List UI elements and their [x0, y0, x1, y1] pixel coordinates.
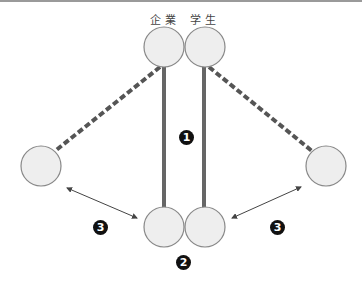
- arrow-left: [67, 188, 137, 218]
- arrow-right: [232, 187, 301, 218]
- right-node: [306, 146, 346, 186]
- relationship-diagram: [0, 0, 362, 290]
- student-top-node: [185, 27, 225, 67]
- dashed-link-right: [209, 67, 312, 151]
- student-bottom-node: [185, 207, 225, 247]
- marker-3-right: 3: [270, 220, 285, 235]
- marker-3-left: 3: [93, 220, 108, 235]
- company-label: 企業: [150, 11, 180, 27]
- dashed-link-left: [55, 67, 160, 151]
- student-label: 学生: [190, 11, 220, 27]
- marker-1: 1: [179, 130, 194, 145]
- marker-2: 2: [176, 255, 191, 270]
- left-node: [21, 146, 61, 186]
- company-top-node: [144, 27, 184, 67]
- company-bottom-node: [144, 207, 184, 247]
